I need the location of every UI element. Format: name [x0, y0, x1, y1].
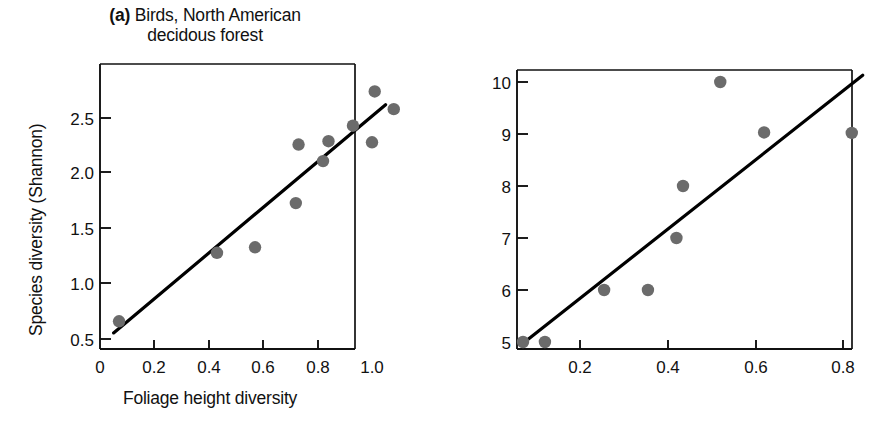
panel-b-plot: 10 9 8 7 6 5 0.2 0.4 0.6 0.8	[0, 0, 875, 427]
data-point	[758, 126, 770, 138]
panel-b-ytick-8: 8	[502, 178, 511, 197]
panel-b-ytick-9: 9	[502, 126, 511, 145]
panel-b-ytick-10: 10	[492, 74, 511, 93]
figure-container: (a) Birds, North American decidous fores…	[0, 0, 875, 427]
panel-b-regression-line	[522, 75, 863, 344]
data-point	[670, 232, 682, 244]
panel-b-xtick-0.4: 0.4	[656, 358, 680, 377]
panel-b-xtick-0.8: 0.8	[831, 358, 855, 377]
panel-b-xtick-0.2: 0.2	[568, 358, 592, 377]
data-point	[598, 284, 610, 296]
data-point	[846, 127, 858, 139]
panel-b-ytick-6: 6	[502, 282, 511, 301]
data-point	[517, 336, 529, 348]
panel-b-xtick-0.6: 0.6	[744, 358, 768, 377]
panel-b-y-ticks: 10 9 8 7 6 5	[492, 74, 528, 353]
data-point	[714, 76, 726, 88]
panel-b-ytick-7: 7	[502, 230, 511, 249]
panel-b-x-ticks: 0.2 0.4 0.6 0.8	[568, 340, 855, 377]
data-point	[677, 180, 689, 192]
data-point	[642, 284, 654, 296]
panel-b-lizards: (b) Lizards, North American deserts Spec…	[440, 0, 875, 427]
panel-b-ytick-5: 5	[502, 334, 511, 353]
data-point	[539, 336, 551, 348]
